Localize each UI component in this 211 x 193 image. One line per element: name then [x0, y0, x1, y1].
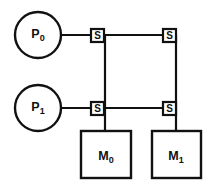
- switch-label-s00: S: [94, 30, 101, 41]
- processor-label-base-p0: P: [31, 27, 39, 41]
- switch-node-s00[interactable]: S: [91, 29, 104, 42]
- switch-node-s11[interactable]: S: [163, 102, 176, 115]
- processor-node-p0[interactable]: P0: [15, 12, 61, 58]
- memory-label-base-m0: M: [98, 149, 108, 163]
- processor-label-sub-p0: 0: [40, 33, 45, 43]
- processor-group: P0 P1: [15, 12, 61, 131]
- memory-label-base-m1: M: [168, 149, 178, 163]
- memory-node-m0[interactable]: M0: [81, 131, 131, 178]
- switch-label-s11: S: [166, 103, 173, 114]
- switch-node-s01[interactable]: S: [163, 29, 176, 42]
- switch-label-s01: S: [166, 30, 173, 41]
- memory-group: M0 M1: [81, 131, 201, 178]
- processor-node-p1[interactable]: P1: [15, 85, 61, 131]
- memory-label-sub-m0: 0: [109, 155, 114, 165]
- switch-group: S S S S: [91, 29, 176, 115]
- processor-label-sub-p1: 1: [40, 106, 45, 116]
- processor-label-base-p1: P: [31, 100, 39, 114]
- memory-label-sub-m1: 1: [179, 155, 184, 165]
- switch-node-s10[interactable]: S: [91, 102, 104, 115]
- memory-node-m1[interactable]: M1: [152, 131, 201, 178]
- diagram-canvas: P0 P1 M0 M1: [0, 0, 211, 193]
- link-group: [61, 35, 176, 131]
- interconnect-diagram: P0 P1 M0 M1: [0, 0, 211, 193]
- switch-label-s10: S: [94, 103, 101, 114]
